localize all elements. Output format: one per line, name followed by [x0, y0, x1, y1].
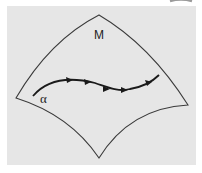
corner-arc-decoration: [170, 0, 192, 1]
curve-label-alpha: α: [40, 91, 47, 107]
surface-diagram: [0, 0, 202, 173]
curve-alpha: [33, 75, 159, 96]
surface-label-m: M: [94, 28, 104, 42]
